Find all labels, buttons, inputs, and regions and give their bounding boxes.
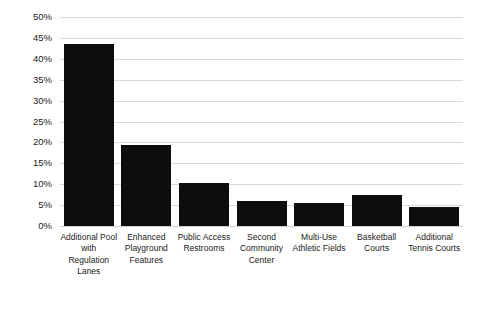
bar [121,145,171,227]
x-axis-category-label: Basketball Courts [348,232,406,255]
y-axis-tick-label: 35% [0,75,52,85]
bar-chart: 0%5%10%15%20%25%30%35%40%45%50% Addition… [0,0,485,310]
x-axis: Additional Pool with Regulation LanesEnh… [60,232,463,296]
bar [409,207,459,226]
bar [352,195,402,226]
x-axis-category-label: Public Access Restrooms [175,232,233,255]
bar [237,201,287,226]
bar [64,44,114,226]
y-axis-tick-label: 40% [0,54,52,64]
y-axis-tick-label: 30% [0,96,52,106]
x-axis-category-label: Second Community Center [233,232,291,266]
y-axis-tick-label: 0% [0,221,52,231]
x-axis-category-label: Additional Tennis Courts [405,232,463,255]
plot-area [60,17,463,226]
y-axis-tick-label: 25% [0,117,52,127]
bar [294,203,344,226]
x-axis-category-label: Additional Pool with Regulation Lanes [60,232,118,278]
x-axis-category-label: Multi-Use Athletic Fields [290,232,348,255]
y-axis-tick-label: 45% [0,33,52,43]
y-axis-tick-label: 10% [0,179,52,189]
bar [179,183,229,226]
y-axis-tick-label: 5% [0,200,52,210]
y-axis: 0%5%10%15%20%25%30%35%40%45%50% [0,17,52,226]
gridline-0 [60,226,463,227]
y-axis-tick-label: 15% [0,159,52,169]
bar-series [60,17,463,226]
y-axis-tick-label: 20% [0,138,52,148]
y-axis-tick-label: 50% [0,12,52,22]
x-axis-category-label: Enhanced Playground Features [118,232,176,266]
